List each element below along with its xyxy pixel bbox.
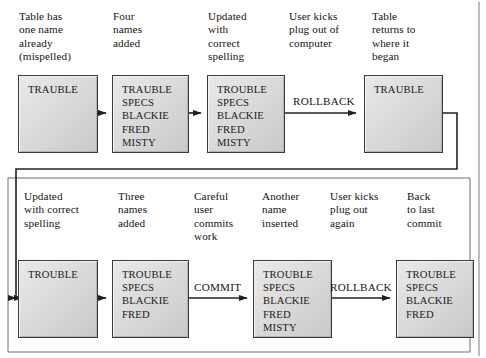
table-row: FRED [122,308,185,321]
table-box-bottom-1: TROUBLE [18,260,98,338]
table-row: BLACKIE [217,109,281,122]
table-box-top-4-rows: TRAUBLE [374,83,439,96]
table-box-top-2: TRAUBLE SPECS BLACKIE FRED MISTY [112,75,189,153]
table-row: TROUBLE [263,268,328,281]
table-row: SPECS [122,281,185,294]
table-row: TROUBLE [217,83,281,96]
caption-user-kicks-plug-out-again: User kicks plug out again [330,190,402,230]
table-row: BLACKIE [263,294,328,307]
operation-label-rollback-top: ROLLBACK [293,95,355,107]
table-row: TRAUBLE [374,83,439,96]
table-row: FRED [263,308,328,321]
caption-table-has-one-name: Table has one name already (mispelled) [19,10,107,64]
caption-another-name-inserted: Another name inserted [262,190,330,230]
table-box-top-3: TROUBLE SPECS BLACKIE FRED MISTY [207,75,285,153]
table-row: FRED [122,123,185,136]
table-box-bottom-2: TROUBLE SPECS BLACKIE FRED [112,260,189,338]
table-row: TROUBLE [28,268,94,281]
table-row: SPECS [122,96,185,109]
table-box-top-3-rows: TROUBLE SPECS BLACKIE FRED MISTY [217,83,281,149]
table-row: SPECS [406,281,470,294]
table-row: TRAUBLE [122,83,185,96]
table-row: MISTY [217,136,281,149]
table-box-bottom-3: TROUBLE SPECS BLACKIE FRED MISTY [253,260,332,338]
table-row: BLACKIE [122,294,185,307]
table-row: FRED [406,308,470,321]
caption-table-returns-where-it-began: Table returns to where it began [372,10,452,64]
caption-careful-user-commits-work: Careful user commits work [194,190,260,244]
table-row: TROUBLE [406,268,470,281]
table-box-bottom-2-rows: TROUBLE SPECS BLACKIE FRED [122,268,185,321]
table-row: BLACKIE [122,109,185,122]
table-box-bottom-4-rows: TROUBLE SPECS BLACKIE FRED [406,268,470,321]
operation-label-rollback-bottom: ROLLBACK [330,281,392,293]
table-box-bottom-4: TROUBLE SPECS BLACKIE FRED [396,260,474,338]
table-row: BLACKIE [406,294,470,307]
table-box-top-1-rows: TRAUBLE [28,83,94,96]
table-row: MISTY [263,321,328,334]
table-row: SPECS [217,96,281,109]
caption-user-kicks-plug-out-of-computer: User kicks plug out of computer [289,10,367,50]
table-box-top-4: TRAUBLE [364,75,443,153]
table-box-bottom-3-rows: TROUBLE SPECS BLACKIE FRED MISTY [263,268,328,334]
table-row: FRED [217,123,281,136]
table-box-top-1: TRAUBLE [18,75,98,153]
table-row: SPECS [263,281,328,294]
caption-updated-correct-spelling-top: Updated with correct spelling [208,10,288,64]
table-row: TRAUBLE [28,83,94,96]
table-box-top-2-rows: TRAUBLE SPECS BLACKIE FRED MISTY [122,83,185,149]
caption-back-to-last-commit: Back to last commit [407,190,473,230]
figure-canvas: Table has one name already (mispelled) F… [0,0,486,358]
table-box-bottom-1-rows: TROUBLE [28,268,94,281]
caption-updated-correct-spelling-bottom: Updated with correct spelling [24,190,116,230]
table-row: MISTY [122,136,185,149]
operation-label-commit-bottom: COMMIT [194,281,241,293]
table-row: TROUBLE [122,268,185,281]
caption-three-names-added: Three names added [118,190,190,230]
caption-four-names-added: Four names added [113,10,198,50]
